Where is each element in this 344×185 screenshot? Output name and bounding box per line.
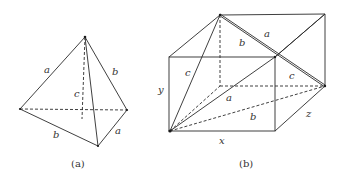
edge-apex-bottom bbox=[85, 37, 98, 146]
caption-b: (b) bbox=[239, 158, 253, 169]
label-z: z bbox=[305, 108, 312, 119]
diagonal-double-1 bbox=[220, 14, 325, 85]
label-a-top: a bbox=[264, 28, 270, 39]
vertex-back-right bbox=[324, 85, 326, 87]
figure-canvas: a b c b a (a) bbox=[0, 0, 344, 185]
edge-apex-right bbox=[85, 37, 127, 110]
height-c-dashed bbox=[82, 37, 85, 119]
tetrahedron: a b c b a (a) bbox=[19, 36, 128, 169]
label-x: x bbox=[219, 135, 225, 146]
label-b-diagonal: b bbox=[250, 111, 256, 122]
label-y: y bbox=[157, 84, 164, 95]
vertex-apex bbox=[84, 36, 87, 39]
back-top-edge bbox=[220, 14, 325, 15]
label-a-left: a bbox=[44, 64, 50, 75]
edge-left-bottom bbox=[20, 109, 98, 146]
diagonal-a-top bbox=[275, 14, 325, 57]
hidden-depth-bottom-left bbox=[170, 86, 220, 131]
vertex-origin bbox=[168, 129, 171, 132]
label-c-right: c bbox=[289, 70, 295, 81]
diagonal-b-bottom bbox=[170, 86, 325, 131]
vertex-right bbox=[126, 109, 128, 111]
label-c-left: c bbox=[185, 67, 191, 78]
label-a-bottom: a bbox=[115, 125, 121, 136]
vertex-left bbox=[19, 108, 21, 110]
vertex-bottom bbox=[97, 145, 99, 147]
depth-top-left bbox=[169, 15, 220, 57]
vertex-back-top-left bbox=[219, 14, 221, 16]
edge-right-bottom bbox=[98, 110, 127, 146]
label-c-height: c bbox=[74, 88, 80, 99]
box: a b c c a b x y z (b) bbox=[157, 14, 326, 169]
label-b-right: b bbox=[112, 66, 118, 77]
label-a-diagonal: a bbox=[226, 92, 232, 103]
vertex-front-top-right bbox=[274, 56, 276, 58]
label-b-top: b bbox=[239, 37, 245, 48]
caption-a: (a) bbox=[71, 158, 85, 169]
edge-hidden-base bbox=[20, 109, 127, 110]
depth-bottom-right bbox=[275, 86, 325, 131]
label-b-bottom: b bbox=[53, 129, 59, 140]
